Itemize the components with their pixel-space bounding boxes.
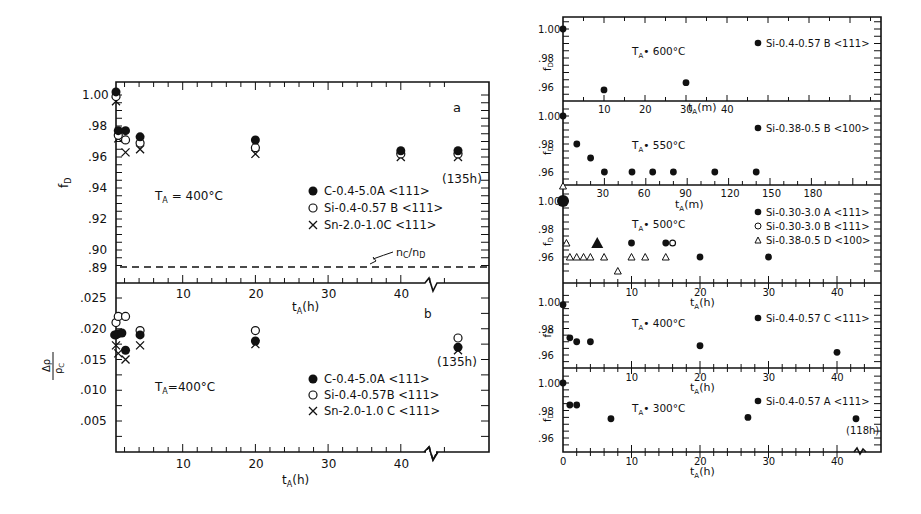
svg-text:30: 30 xyxy=(321,287,336,301)
svg-text:40: 40 xyxy=(831,372,844,383)
svg-text:30: 30 xyxy=(763,456,776,467)
svg-text:.96: .96 xyxy=(538,252,554,263)
figure-canvas: nC/nD 1.00.98.96.94.92.90.89 fD .025.020… xyxy=(0,0,921,514)
legend-300: Si-0.4-0.57 A <111> xyxy=(755,396,870,407)
x-axis-label-bottom: tA(h) xyxy=(282,473,309,489)
svg-text:30: 30 xyxy=(321,457,336,471)
x-axis-label-mid: tA(h) xyxy=(292,300,319,316)
svg-text:.010: .010 xyxy=(80,383,107,397)
svg-text:.96: .96 xyxy=(538,433,554,444)
svg-text:Sn-2.0-1.0C <111>: Sn-2.0-1.0C <111> xyxy=(324,218,436,232)
x-axis-label-500: tA(h) xyxy=(690,296,715,311)
svg-text:.90: .90 xyxy=(88,243,107,257)
svg-text:.96: .96 xyxy=(538,82,554,93)
annotation-135h-a: (135h) xyxy=(442,172,482,186)
y-axis-label-drho: Δρ ρC xyxy=(41,352,66,380)
svg-text:Si-0.30-3.0 A <111>: Si-0.30-3.0 A <111> xyxy=(766,207,870,218)
svg-text:fD: fD xyxy=(542,237,555,246)
right-panels: 1.00.98.961.00.98.961.00.98.961.00.98.96… xyxy=(538,17,881,480)
svg-text:Si-0.4-0.57B <111>: Si-0.4-0.57B <111> xyxy=(324,388,439,402)
x-axis-label-400: tA(h) xyxy=(690,381,715,396)
svg-text:.89: .89 xyxy=(88,261,107,275)
svg-text:40: 40 xyxy=(831,287,844,298)
panel-label-b: b xyxy=(424,307,432,321)
panel-divider-axis xyxy=(116,278,489,291)
svg-text:40: 40 xyxy=(831,456,844,467)
legend-b: C-0.4-5.0A <111> Si-0.4-0.57B <111> Sn-2… xyxy=(309,372,441,418)
svg-text:180: 180 xyxy=(803,188,822,199)
temp-300: TA• 300°C xyxy=(631,402,685,417)
svg-text:Si-0.4-0.57 B <111>: Si-0.4-0.57 B <111> xyxy=(324,201,443,215)
svg-text:10: 10 xyxy=(176,457,191,471)
svg-text:0: 0 xyxy=(560,456,566,467)
temp-annotation-b: TA=400°C xyxy=(154,380,215,396)
y-tick-labels-b: .025.020.015.010.005 xyxy=(80,291,107,428)
x-axis-label-600: tA(m) xyxy=(688,101,716,116)
svg-text:.98: .98 xyxy=(538,224,554,235)
svg-text:.92: .92 xyxy=(88,212,107,226)
x-axis-label-550: tA(m) xyxy=(675,198,703,213)
svg-text:.96: .96 xyxy=(88,150,107,164)
nc-nd-label: nC/nD xyxy=(396,246,425,260)
svg-text:40: 40 xyxy=(394,287,409,301)
svg-text:1.00: 1.00 xyxy=(82,88,109,102)
x-tick-labels-right: 1020304030609012015018010101020202030303… xyxy=(560,104,844,467)
legend-550: Si-0.38-0.5 B <100> xyxy=(755,123,870,134)
svg-text:Sn-2.0-1.0 C <111>: Sn-2.0-1.0 C <111> xyxy=(324,404,440,418)
svg-text:Si-0.4-0.57 A <111>: Si-0.4-0.57 A <111> xyxy=(766,396,870,407)
legend-600: Si-0.4-0.57 B <111> xyxy=(755,38,870,49)
svg-text:.98: .98 xyxy=(88,119,107,133)
x-tick-labels-middle: 10203040 xyxy=(176,287,409,301)
svg-text:.025: .025 xyxy=(80,291,107,305)
svg-text:Si-0.38-0.5 D <100>: Si-0.38-0.5 D <100> xyxy=(766,235,870,246)
left-panel: nC/nD 1.00.98.96.94.92.90.89 fD .025.020… xyxy=(41,82,489,489)
svg-text:20: 20 xyxy=(248,287,263,301)
temp-600: TA• 600°C xyxy=(631,45,685,60)
y-axis-label-fd: fD xyxy=(57,178,73,188)
svg-text:.94: .94 xyxy=(88,181,107,195)
svg-text:150: 150 xyxy=(762,188,781,199)
svg-text:1.00: 1.00 xyxy=(538,24,560,35)
annotation-118h: (118h) xyxy=(846,425,879,436)
temp-400: TA• 400°C xyxy=(631,317,685,332)
svg-text:1.00: 1.00 xyxy=(538,196,560,207)
svg-text:1.00: 1.00 xyxy=(538,111,560,122)
svg-text:.015: .015 xyxy=(80,353,107,367)
legend-a: C-0.4-5.0A <111> Si-0.4-0.57 B <111> Sn-… xyxy=(309,184,444,232)
svg-text:Si-0.4-0.57 C <111>: Si-0.4-0.57 C <111> xyxy=(766,313,870,324)
svg-text:10: 10 xyxy=(598,104,611,115)
legend-400: Si-0.4-0.57 C <111> xyxy=(755,313,870,324)
svg-text:.005: .005 xyxy=(80,414,107,428)
axis-break-300 xyxy=(854,448,866,454)
svg-text:C-0.4-5.0A <111>: C-0.4-5.0A <111> xyxy=(324,184,430,198)
data-points-a xyxy=(112,87,463,161)
svg-text:Si-0.38-0.5 B <100>: Si-0.38-0.5 B <100> xyxy=(766,123,870,134)
svg-text:ρC: ρC xyxy=(53,363,66,374)
svg-text:Δρ: Δρ xyxy=(41,359,52,372)
svg-text:20: 20 xyxy=(639,104,652,115)
svg-text:Si-0.30-3.0 B <111>: Si-0.30-3.0 B <111> xyxy=(766,221,870,232)
svg-text:.020: .020 xyxy=(80,322,107,336)
svg-text:1.00: 1.00 xyxy=(538,297,560,308)
svg-text:.96: .96 xyxy=(538,350,554,361)
svg-text:10: 10 xyxy=(626,372,639,383)
svg-text:40: 40 xyxy=(394,457,409,471)
y-tick-labels-right: 1.00.98.961.00.98.961.00.98.961.00.98.96… xyxy=(538,24,560,444)
svg-text:C-0.4-5.0A <111>: C-0.4-5.0A <111> xyxy=(324,372,430,386)
nc-nd-pointer xyxy=(373,252,393,259)
svg-text:60: 60 xyxy=(638,188,651,199)
data-points-b xyxy=(110,312,462,363)
panel-label-a: a xyxy=(453,100,461,115)
svg-text:30: 30 xyxy=(596,188,609,199)
legend-500: Si-0.30-3.0 A <111> Si-0.30-3.0 B <111> … xyxy=(755,207,871,246)
svg-text:10: 10 xyxy=(626,456,639,467)
svg-text:.96: .96 xyxy=(538,167,554,178)
annotation-135h-b: (135h) xyxy=(437,355,477,369)
svg-text:30: 30 xyxy=(763,372,776,383)
temp-550: TA• 550°C xyxy=(631,139,685,154)
svg-text:20: 20 xyxy=(248,457,263,471)
y-tick-labels-a: 1.00.98.96.94.92.90.89 xyxy=(82,88,109,275)
svg-text:30: 30 xyxy=(763,287,776,298)
svg-text:Si-0.4-0.57 B <111>: Si-0.4-0.57 B <111> xyxy=(766,38,870,49)
temp-annotation-a: TA = 400°C xyxy=(154,189,223,205)
